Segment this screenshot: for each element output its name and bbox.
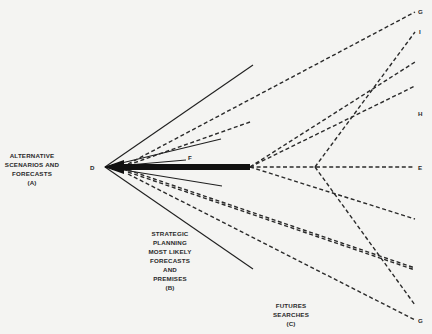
dashed-ray-g-top [128,12,415,164]
point-label-e: E [418,164,422,171]
dashed-branch-i [315,32,415,167]
dashed-ray-lower [250,167,415,219]
point-label-i: I [419,28,421,35]
point-label-d: D [90,164,94,171]
point-label-g-bottom: G [418,317,423,324]
label-alternative-scenarios: ALTERNATIVE SCENARIOS AND FORECASTS (A) [0,151,64,187]
dashed-ray-h [250,86,415,167]
point-label-h: H [418,110,422,117]
futures-planning-diagram [0,0,432,334]
dashed-ray-upper-2 [250,62,415,167]
origin-arrowhead [104,160,124,174]
point-label-g-top: G [418,8,423,15]
label-strategic-planning: STRATEGIC PLANNING MOST LIKELY FORECASTS… [138,229,202,292]
label-futures-searches: FUTURES SEARCHES (C) [266,301,316,328]
dashed-branch-down [315,167,415,305]
solid-ray-upper-long [105,65,253,167]
point-label-f: F [188,154,192,161]
